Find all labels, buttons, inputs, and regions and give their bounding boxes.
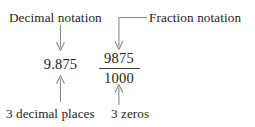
up-arrow-icon-decimal-places (57, 76, 65, 103)
zeros-label: 3 zeros (111, 107, 149, 120)
fraction-numerator: 9875 (96, 51, 142, 68)
up-arrow-icon-zeros (115, 85, 123, 106)
decimal-fraction-diagram: Decimal notation Fraction notation 9.875… (0, 0, 255, 127)
fraction-expression: 9875 1000 (96, 51, 142, 85)
decimal-places-label: 3 decimal places (6, 107, 95, 120)
decimal-notation-label: Decimal notation (9, 11, 102, 24)
down-arrow-icon (57, 25, 65, 51)
fraction-notation-label: Fraction notation (149, 11, 241, 24)
elbow-down-arrow-icon (115, 18, 147, 50)
fraction-denominator: 1000 (96, 69, 142, 86)
